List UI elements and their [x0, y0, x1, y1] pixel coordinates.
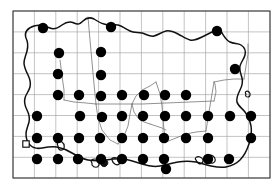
record-dot	[230, 64, 240, 74]
record-dot	[75, 111, 85, 121]
record-dot	[117, 133, 127, 143]
record-dot	[38, 23, 48, 33]
record-dot	[106, 22, 116, 32]
record-dot	[74, 133, 84, 143]
record-dot	[246, 111, 256, 121]
record-dot	[139, 90, 149, 100]
record-dot	[225, 111, 235, 121]
record-dot	[54, 48, 64, 58]
record-dot	[138, 111, 148, 121]
record-dot	[203, 111, 213, 121]
record-dot	[53, 133, 63, 143]
record-dot	[138, 133, 148, 143]
record-dot	[159, 133, 169, 143]
record-dot	[212, 26, 222, 36]
record-dot	[224, 154, 234, 164]
distribution-map-figure	[0, 0, 280, 185]
record-dot	[159, 154, 169, 164]
record-dot	[117, 154, 127, 164]
record-dot	[95, 133, 105, 143]
record-dot	[181, 90, 191, 100]
record-dot	[161, 164, 171, 174]
record-dot	[160, 111, 170, 121]
record-dot	[246, 133, 256, 143]
record-dot	[53, 154, 63, 164]
record-dot	[32, 154, 42, 164]
record-dot	[203, 133, 213, 143]
record-dot	[117, 90, 127, 100]
record-dot	[32, 133, 42, 143]
record-dot	[53, 69, 63, 79]
record-dot	[117, 111, 127, 121]
record-dot	[160, 90, 170, 100]
record-dot	[96, 91, 106, 101]
record-dot	[96, 154, 106, 164]
record-dot	[181, 111, 191, 121]
record-dot	[97, 112, 107, 122]
record-dot	[96, 70, 106, 80]
open-square-record	[23, 141, 29, 147]
record-dot	[73, 154, 83, 164]
record-dot	[53, 90, 63, 100]
record-dot	[203, 154, 213, 164]
record-dot	[74, 90, 84, 100]
record-dot	[181, 133, 191, 143]
map-canvas	[0, 0, 280, 185]
record-dot	[32, 111, 42, 121]
record-dot	[138, 154, 148, 164]
record-dot	[96, 47, 106, 57]
